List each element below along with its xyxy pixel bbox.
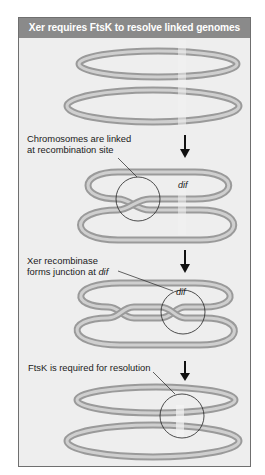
- label-text: forms junction at: [27, 266, 98, 277]
- dif-italic-text: dif: [98, 266, 108, 277]
- down-arrow-icon: [180, 361, 190, 381]
- stage-resolution: [67, 372, 239, 457]
- label-line: Xer recombinase: [27, 255, 108, 266]
- stage-junction: [77, 271, 234, 345]
- dif-site-highlight: [178, 185, 186, 235]
- label-resolution: FtsK is required for resolution: [28, 362, 150, 373]
- dif-site-label: dif: [176, 287, 186, 297]
- stage-unlinked: [67, 40, 239, 126]
- label-line: forms junction at dif: [27, 266, 108, 277]
- chromosome-ring-top: [79, 51, 237, 77]
- stage-linked: [81, 158, 234, 240]
- label-junction: Xer recombinase forms junction at dif: [27, 255, 108, 277]
- label-linked: Chromosomes are linked at recombination …: [27, 133, 131, 155]
- down-arrow-icon: [180, 250, 190, 273]
- dif-site-highlight: [176, 405, 184, 440]
- dif-site-label: dif: [178, 180, 188, 190]
- label-line: Chromosomes are linked: [27, 133, 131, 144]
- leader-line: [153, 372, 175, 394]
- label-line: at recombination site: [27, 144, 131, 155]
- chromosome-ring-bottom: [67, 90, 239, 122]
- dif-site-highlight: [178, 40, 186, 126]
- diagram-canvas: [0, 0, 265, 475]
- down-arrow-icon: [180, 135, 190, 158]
